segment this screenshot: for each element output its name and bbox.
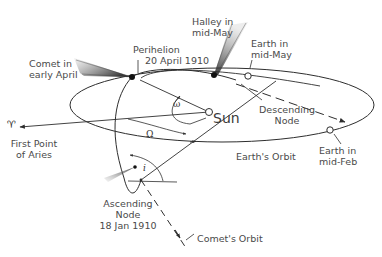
- label-line: Earth in: [251, 38, 292, 49]
- first-point-of-aries-line: [20, 112, 209, 127]
- Omega-angle-arc: [128, 119, 186, 134]
- comets-orbit-label: Comet's Orbit: [197, 233, 263, 244]
- earth-mid-feb-label: Earth in mid-Feb: [319, 145, 357, 167]
- label-line: First Point: [6, 138, 62, 149]
- comets-orbit-leader: [186, 234, 194, 240]
- comet-orbit-solid: [115, 69, 236, 193]
- comet-early-april-icon: [74, 58, 135, 80]
- Omega-angle-label: Ω: [146, 129, 153, 139]
- earth-mid-may-marker: [245, 73, 251, 79]
- label-line: 20 April 1910: [133, 55, 209, 66]
- label-line: Perihelion: [133, 44, 209, 55]
- earths-orbit-label: Earth's Orbit: [236, 151, 296, 162]
- halley-orbit-diagram: [0, 0, 382, 257]
- earth-mid-may-label: Earth in mid-May: [251, 38, 292, 60]
- first-point-of-aries-label: First Point of Aries: [6, 138, 62, 160]
- earth-mid-feb-marker: [327, 127, 333, 133]
- descending-node-label: Descending Node: [256, 104, 318, 126]
- label-line: Halley in: [192, 16, 233, 27]
- label-line: Comet in: [29, 58, 78, 69]
- label-line: mid-May: [251, 49, 292, 60]
- label-line: Descending: [256, 104, 318, 115]
- label-line: Node: [256, 115, 318, 126]
- ascending-node-label: Ascending Node 18 Jan 1910: [98, 198, 158, 231]
- label-line: 18 Jan 1910: [98, 220, 158, 231]
- line-of-nodes: [141, 81, 276, 180]
- perihelion-label: Perihelion 20 April 1910: [133, 44, 209, 66]
- label-line: Earth in: [319, 145, 357, 156]
- descending-node-leader: [241, 84, 262, 100]
- sun-marker: [206, 109, 213, 116]
- omega-angle-label: ω: [173, 99, 180, 109]
- inclination-angle-label: i: [143, 163, 146, 173]
- comet-early-april-label: Comet in early April: [29, 58, 78, 80]
- label-line: Node: [98, 209, 158, 220]
- halley-mid-may-label: Halley in mid-May: [192, 16, 233, 38]
- label-line: of Aries: [6, 149, 62, 160]
- earth-may-leader: [250, 60, 252, 68]
- label-line: early April: [29, 69, 78, 80]
- label-line: Ascending: [98, 198, 158, 209]
- label-line: mid-Feb: [319, 156, 357, 167]
- aries-symbol: ♈: [7, 119, 16, 130]
- earth-feb-leader: [334, 134, 341, 144]
- label-line: mid-May: [192, 27, 233, 38]
- sun-label: Sun: [213, 111, 240, 126]
- ascending-node-marker: [140, 179, 143, 182]
